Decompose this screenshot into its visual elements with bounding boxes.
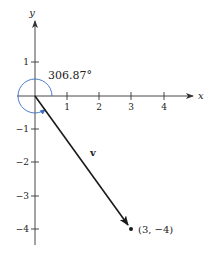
- angle-arc: 306.87°: [18, 69, 92, 113]
- vector-angle-diagram: x 1 2 3 4 y 1 −1: [0, 0, 213, 255]
- point-label: (3, −4): [138, 224, 173, 235]
- angle-label: 306.87°: [48, 69, 92, 82]
- terminal-point: (3, −4): [129, 224, 173, 235]
- y-tick-neg4: −4: [16, 224, 30, 234]
- y-tick-neg2: −2: [16, 157, 29, 167]
- x-axis-label: x: [198, 90, 204, 101]
- x-ticks: 1 2 3 4: [64, 92, 167, 112]
- x-tick-1: 1: [64, 102, 70, 112]
- x-tick-2: 2: [96, 102, 102, 112]
- x-tick-4: 4: [161, 102, 167, 112]
- y-tick-neg1: −1: [16, 124, 29, 134]
- vector-v: v: [35, 96, 128, 225]
- vector-label: v: [89, 147, 97, 158]
- x-tick-3: 3: [128, 102, 134, 112]
- y-tick-1: 1: [23, 57, 29, 67]
- y-ticks: 1 −1 −2 −3 −4: [16, 57, 39, 234]
- y-axis: y 1 −1 −2 −3 −4: [16, 7, 39, 245]
- y-axis-label: y: [28, 7, 35, 18]
- y-tick-neg3: −3: [16, 191, 30, 201]
